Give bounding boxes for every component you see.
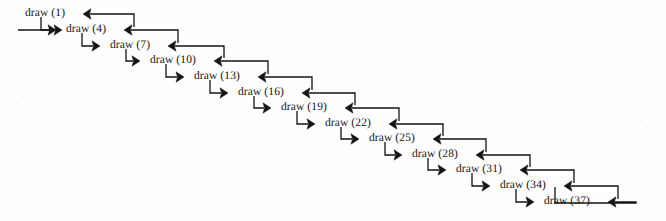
return-arrow-head-10 xyxy=(214,56,222,66)
return-arrow-head-22 xyxy=(389,119,397,129)
call-arrow-head-28 xyxy=(394,150,402,160)
step-label-draw-34: draw (34) xyxy=(500,180,546,192)
return-arrow-head-4 xyxy=(124,25,132,35)
call-arrow-head-37 xyxy=(526,197,534,207)
return-arrow-head-1 xyxy=(83,9,91,19)
return-arrow-head-31 xyxy=(520,165,528,175)
return-arrow-head-7 xyxy=(168,41,176,51)
step-label-draw-1: draw (1) xyxy=(25,8,65,20)
step-label-draw-7: draw (7) xyxy=(110,40,150,52)
call-arrow-head-10 xyxy=(132,56,140,66)
call-arrow-head-22 xyxy=(307,119,315,129)
return-arrow-head-25 xyxy=(433,134,441,144)
step-label-draw-25: draw (25) xyxy=(369,133,415,145)
call-arrow-head-31 xyxy=(438,165,446,175)
return-arrow-head-34 xyxy=(564,181,572,191)
call-arrow-head-13 xyxy=(176,72,184,82)
call-arrow-head-19 xyxy=(263,103,271,113)
step-label-draw-37: draw (37) xyxy=(544,196,590,208)
step-label-draw-31: draw (31) xyxy=(456,164,502,176)
call-arrow-head-16 xyxy=(220,88,228,98)
step-label-draw-10: draw (10) xyxy=(150,55,196,67)
step-label-draw-4: draw (4) xyxy=(66,24,106,36)
step-label-draw-16: draw (16) xyxy=(238,87,284,99)
call-arrow-head-25 xyxy=(351,134,359,144)
step-label-draw-19: draw (19) xyxy=(281,102,327,114)
return-arrow-head-19 xyxy=(345,103,353,113)
draw-recursion-diagram: draw (1)draw (4)draw (7)draw (10)draw (1… xyxy=(0,0,666,221)
call-arrow-head-7 xyxy=(92,41,100,51)
bottom-return-loop-head xyxy=(608,197,616,207)
step-label-draw-28: draw (28) xyxy=(412,149,458,161)
return-arrow-head-13 xyxy=(258,72,266,82)
return-arrow-head-28 xyxy=(476,150,484,160)
step-label-draw-22: draw (22) xyxy=(325,118,371,130)
call-arrow-head-34 xyxy=(482,181,490,191)
return-arrow-head-16 xyxy=(302,88,310,98)
step-label-draw-13: draw (13) xyxy=(194,71,240,83)
